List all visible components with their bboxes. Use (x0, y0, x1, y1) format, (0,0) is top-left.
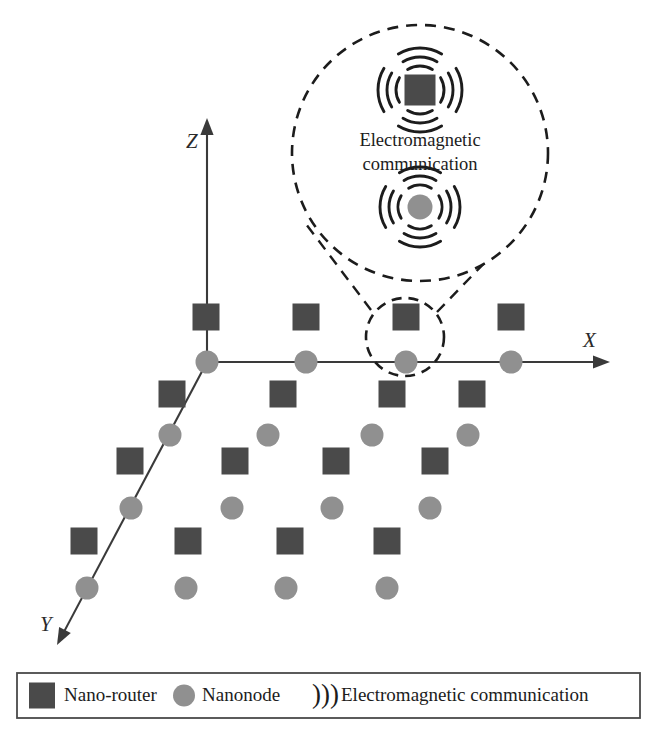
nano-router-node (374, 528, 401, 555)
nanonode-swatch-icon (173, 685, 195, 707)
nanonode-node (120, 497, 143, 520)
nano-router-node (293, 304, 320, 331)
x-axis-label: X (582, 328, 597, 352)
nano-router-node (159, 381, 186, 408)
legend-item-nano-router: Nano-router (29, 683, 158, 709)
nanonode-node (376, 577, 399, 600)
nano-router-node (393, 304, 420, 331)
nanonode-node (175, 577, 198, 600)
nanonode-node (361, 424, 384, 447)
nano-router-node (222, 448, 249, 475)
nano-router-swatch-icon (29, 683, 55, 709)
z-axis-arrowhead (200, 118, 213, 135)
nano-router-node (270, 381, 297, 408)
nanonode-node (275, 577, 298, 600)
nano-router-node (175, 528, 202, 555)
legend-item-nanonode: Nanonode (173, 684, 280, 707)
nano-router-node (277, 528, 304, 555)
legend-item-em-communication: ))) Electromagnetic communication (312, 679, 589, 709)
x-axis-arrowhead (593, 355, 610, 368)
legend-label-em-communication: Electromagnetic communication (341, 684, 589, 705)
nanonode-node (457, 424, 480, 447)
inset-label-line1: Electromagnetic (359, 130, 480, 150)
figure-canvas: X Y Z (0, 0, 658, 738)
nano-router-node (71, 528, 98, 555)
legend-label-nano-router: Nano-router (64, 684, 158, 705)
nanonode-node (500, 351, 523, 374)
inset-nanonode-icon (408, 195, 433, 220)
nano-router-node (323, 448, 350, 475)
nanonode-node (221, 497, 244, 520)
nano-router-node (117, 448, 144, 475)
nanonode-node (257, 424, 280, 447)
nanonetwork-diagram: X Y Z (0, 0, 658, 738)
nanonode-node (76, 577, 99, 600)
nanonode-node (419, 497, 442, 520)
nano-router-node (498, 304, 525, 331)
nanonode-layer (76, 351, 523, 600)
inset-label-line2: communication (362, 154, 477, 174)
nano-router-node (459, 381, 486, 408)
nanonode-node (196, 351, 219, 374)
nano-router-node (379, 381, 406, 408)
nano-router-node (193, 304, 220, 331)
nanonode-node (159, 424, 182, 447)
nanonode-node (395, 351, 418, 374)
magnifier-lens-circle (292, 25, 548, 281)
legend-label-nanonode: Nanonode (202, 684, 280, 705)
z-axis-label: Z (186, 129, 198, 153)
inset-nano-router-icon (405, 75, 436, 106)
nanonode-node (321, 497, 344, 520)
y-axis-label: Y (40, 612, 54, 636)
wave-swatch-icon: ))) (312, 679, 339, 709)
legend: Nano-router Nanonode ))) Electromagnetic… (17, 673, 640, 718)
nanonode-node (295, 351, 318, 374)
nano-router-node (422, 448, 449, 475)
nano-router-layer (71, 304, 525, 555)
y-axis-arrowhead (57, 627, 71, 645)
